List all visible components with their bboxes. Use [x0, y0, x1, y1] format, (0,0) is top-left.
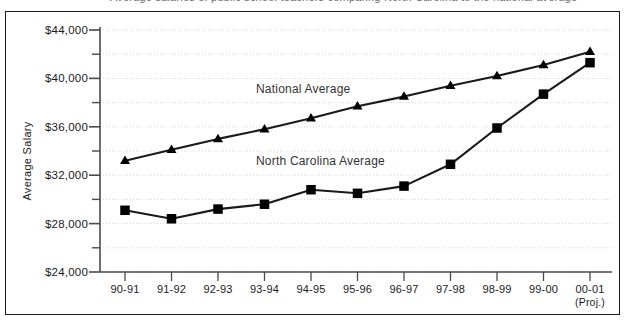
y-tick-label: $36,000: [14, 121, 88, 133]
x-tick-label-sub: (Proj.): [560, 296, 620, 309]
data-point-square: [213, 204, 223, 214]
data-point-square: [120, 206, 130, 216]
data-point-square: [306, 185, 316, 195]
data-point-square: [167, 214, 177, 224]
y-tick-label: $44,000: [14, 24, 88, 36]
series-label-national: National Average: [256, 82, 350, 96]
data-point-square: [446, 160, 456, 170]
data-point-square: [585, 58, 595, 68]
data-point-square: [539, 89, 549, 99]
plot-area: Average Salary $44,000$40,000$36,000$32,…: [0, 0, 625, 322]
x-tick-label: 00-01(Proj.): [560, 283, 620, 309]
chart-screenshot: Average salaries of public school teache…: [0, 0, 625, 322]
data-point-square: [260, 199, 270, 209]
y-tick-label: $28,000: [14, 218, 88, 230]
data-point-triangle: [585, 47, 595, 56]
series-label-north-carolina: North Carolina Average: [256, 154, 385, 168]
data-point-square: [399, 181, 409, 191]
y-tick-label: $24,000: [14, 266, 88, 278]
y-tick-label: $32,000: [14, 169, 88, 181]
data-point-square: [353, 189, 363, 199]
data-point-square: [492, 123, 502, 133]
y-tick-label: $40,000: [14, 72, 88, 84]
y-axis-tick-labels: $44,000$40,000$36,000$32,000$28,000$24,0…: [14, 0, 88, 322]
